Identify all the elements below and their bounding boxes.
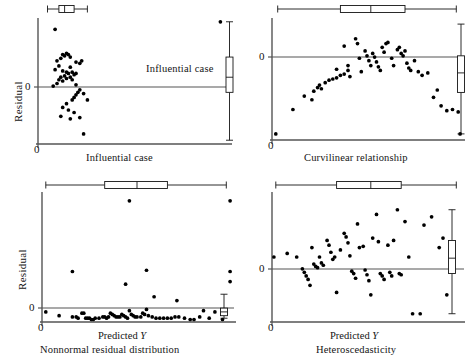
residual-plots-figure [0, 0, 465, 362]
data-point [107, 315, 111, 319]
data-point [375, 213, 379, 217]
data-point [285, 252, 289, 256]
data-point [411, 312, 415, 316]
data-point [369, 64, 373, 68]
data-point [386, 243, 390, 247]
data-point [409, 69, 413, 73]
data-point [71, 315, 75, 319]
data-point [135, 315, 139, 319]
panel2-caption: Curvilinear relationship [304, 152, 408, 163]
data-point [272, 255, 276, 259]
data-point [173, 315, 177, 319]
panel3-x-origin-tick-label: 0 [38, 321, 44, 333]
data-point [304, 274, 308, 278]
data-point [354, 276, 358, 280]
data-point [327, 243, 331, 247]
data-point [392, 239, 396, 243]
data-point [74, 60, 78, 64]
scatter-points [272, 208, 449, 316]
data-point [219, 20, 223, 24]
data-point [139, 315, 143, 319]
data-point [318, 83, 322, 87]
panel-1-plot [34, 6, 233, 149]
data-point [363, 268, 367, 272]
data-point [321, 263, 325, 267]
data-point [202, 309, 206, 313]
data-point [228, 280, 232, 284]
data-point [339, 248, 343, 252]
data-point [147, 314, 151, 318]
data-point [392, 64, 396, 68]
panel3-x-axis-label-variable: Y [140, 330, 146, 341]
data-point [342, 72, 346, 76]
top-marginal-boxplot [278, 6, 457, 13]
data-point [78, 116, 82, 120]
data-point [371, 236, 375, 240]
data-point [291, 108, 295, 112]
data-point [346, 64, 350, 68]
data-point [354, 37, 358, 41]
data-point [418, 312, 422, 316]
data-point [86, 98, 90, 102]
panel1-influential-case-annotation: Influential case [146, 63, 214, 74]
data-point [358, 246, 362, 250]
data-point [426, 71, 430, 75]
data-point [401, 54, 405, 58]
data-point [378, 69, 382, 73]
panel-2-plot [268, 6, 465, 145]
data-point [365, 54, 369, 58]
right-marginal-boxplot [449, 210, 456, 314]
data-point [177, 315, 181, 319]
panel-3-plot [38, 182, 236, 327]
data-point [183, 316, 187, 320]
data-point [339, 73, 343, 77]
data-point [128, 199, 132, 203]
data-point [388, 271, 392, 275]
data-point [416, 70, 420, 74]
panel1-x-origin-tick-label: 0 [34, 143, 40, 155]
data-point [59, 56, 63, 60]
data-point [57, 64, 61, 68]
panel3-caption: Nonnormal residual distribution [40, 344, 179, 355]
data-point [76, 316, 80, 320]
data-point [71, 270, 75, 274]
data-point [61, 79, 65, 83]
data-point [51, 84, 55, 88]
data-point [302, 271, 306, 275]
data-point [221, 318, 225, 322]
data-point [145, 308, 149, 312]
data-point [169, 316, 173, 320]
panel4-zero-tick-label: 0 [259, 262, 265, 274]
data-point [369, 293, 373, 297]
data-point [78, 62, 82, 66]
data-point [192, 318, 196, 322]
right-marginal-boxplot [226, 22, 233, 140]
data-point [331, 77, 335, 81]
data-point [310, 246, 314, 250]
data-point [154, 316, 158, 320]
data-point [213, 310, 217, 314]
data-point [329, 250, 333, 254]
data-point [445, 293, 449, 297]
data-point [295, 255, 299, 259]
data-point [445, 109, 449, 113]
data-point [344, 235, 348, 239]
data-point [93, 316, 97, 320]
data-point [65, 102, 69, 106]
data-point [405, 61, 409, 65]
data-point [68, 65, 72, 69]
data-point [356, 42, 360, 46]
data-point [333, 255, 337, 259]
data-point [70, 98, 74, 102]
top-marginal-boxplot [276, 182, 457, 189]
data-point [375, 60, 379, 64]
data-point [390, 56, 394, 60]
data-point [312, 89, 316, 93]
data-point [367, 279, 371, 283]
data-point [228, 199, 232, 203]
data-point [377, 240, 381, 244]
data-point [363, 49, 367, 53]
data-point [61, 69, 65, 73]
data-point [310, 98, 314, 102]
data-point [82, 132, 86, 136]
